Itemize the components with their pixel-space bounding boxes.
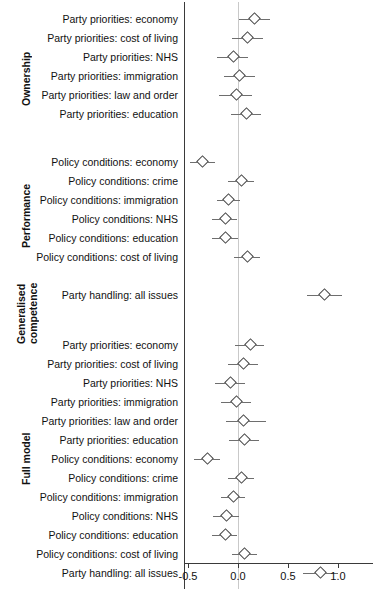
row-plot-area xyxy=(184,86,375,105)
estimate-row: Party priorities: immigration xyxy=(0,393,375,412)
estimate-point xyxy=(201,452,214,465)
estimate-row: Policy conditions: NHS xyxy=(0,210,375,229)
row-plot-area xyxy=(184,374,375,393)
estimate-row: Party priorities: NHS xyxy=(0,374,375,393)
estimate-row: Policy conditions: immigration xyxy=(0,191,375,210)
x-axis-tick xyxy=(188,564,189,568)
estimate-row: Party priorities: law and order xyxy=(0,412,375,431)
x-axis-tick xyxy=(238,564,239,568)
estimate-point xyxy=(227,50,240,63)
estimate-row: Party priorities: immigration xyxy=(0,67,375,86)
estimate-point xyxy=(230,395,243,408)
row-label: Policy conditions: cost of living xyxy=(0,248,178,267)
estimate-point xyxy=(238,547,251,560)
row-label: Party priorities: economy xyxy=(0,336,178,355)
estimate-row: Party priorities: education xyxy=(0,431,375,450)
row-label: Policy conditions: economy xyxy=(0,450,178,469)
estimate-point xyxy=(230,88,243,101)
row-plot-area xyxy=(184,507,375,526)
row-plot-area xyxy=(184,229,375,248)
estimate-point xyxy=(238,433,251,446)
row-plot-area xyxy=(184,393,375,412)
row-label: Party priorities: education xyxy=(0,431,178,450)
estimate-row: Policy conditions: economy xyxy=(0,450,375,469)
row-label: Policy conditions: cost of living xyxy=(0,545,178,564)
row-label: Party priorities: cost of living xyxy=(0,355,178,374)
estimate-row: Policy conditions: economy xyxy=(0,153,375,172)
row-label: Party priorities: law and order xyxy=(0,412,178,431)
row-plot-area xyxy=(184,10,375,29)
estimate-point xyxy=(220,509,233,522)
row-plot-area xyxy=(184,355,375,374)
row-label: Party priorities: NHS xyxy=(0,374,178,393)
row-plot-area xyxy=(184,450,375,469)
row-label: Policy conditions: crime xyxy=(0,172,178,191)
row-label: Party priorities: NHS xyxy=(0,48,178,67)
x-axis-tick-edge xyxy=(184,564,185,568)
row-plot-area xyxy=(184,105,375,124)
row-label: Party priorities: immigration xyxy=(0,67,178,86)
row-label: Party priorities: education xyxy=(0,105,178,124)
x-axis-tick xyxy=(338,564,339,568)
row-plot-area xyxy=(184,412,375,431)
row-plot-area xyxy=(184,488,375,507)
x-axis-tick-label: 0.0 xyxy=(216,570,260,582)
estimate-point xyxy=(227,490,240,503)
estimate-row: Party priorities: NHS xyxy=(0,48,375,67)
row-plot-area xyxy=(184,526,375,545)
row-plot-area xyxy=(184,545,375,564)
estimate-row: Party priorities: economy xyxy=(0,336,375,355)
row-label: Party priorities: cost of living xyxy=(0,29,178,48)
estimate-row: Policy conditions: crime xyxy=(0,469,375,488)
row-label: Policy conditions: immigration xyxy=(0,488,178,507)
row-label: Policy conditions: education xyxy=(0,229,178,248)
row-label: Party handling: all issues xyxy=(0,564,178,583)
row-label: Party priorities: economy xyxy=(0,10,178,29)
estimate-row: Party priorities: education xyxy=(0,105,375,124)
forest-plot: OwnershipParty priorities: economyParty … xyxy=(0,0,375,589)
row-plot-area xyxy=(184,248,375,267)
row-plot-area xyxy=(184,286,375,305)
row-label: Policy conditions: immigration xyxy=(0,191,178,210)
estimate-row: Party priorities: economy xyxy=(0,10,375,29)
estimate-point xyxy=(222,193,235,206)
estimate-point xyxy=(235,471,248,484)
estimate-point xyxy=(235,174,248,187)
row-label: Party priorities: immigration xyxy=(0,393,178,412)
estimate-row: Policy conditions: cost of living xyxy=(0,545,375,564)
row-plot-area xyxy=(184,29,375,48)
x-axis-tick xyxy=(288,564,289,568)
row-label: Policy conditions: crime xyxy=(0,469,178,488)
estimate-point xyxy=(241,31,254,44)
row-label: Party handling: all issues xyxy=(0,286,178,305)
x-axis-tick-label: 1.0 xyxy=(316,570,360,582)
row-plot-area xyxy=(184,431,375,450)
estimate-point xyxy=(219,528,232,541)
estimate-point xyxy=(196,155,209,168)
row-label: Policy conditions: economy xyxy=(0,153,178,172)
row-plot-area xyxy=(184,210,375,229)
x-axis-tick-label: -0.5 xyxy=(166,570,210,582)
estimate-point xyxy=(241,250,254,263)
estimate-point xyxy=(244,338,257,351)
x-axis-tick-label: 0.5 xyxy=(266,570,310,582)
row-label: Policy conditions: NHS xyxy=(0,507,178,526)
estimate-point xyxy=(248,12,261,25)
estimate-point xyxy=(237,357,250,370)
estimate-point xyxy=(233,69,246,82)
estimate-point xyxy=(219,212,232,225)
estimate-point xyxy=(224,376,237,389)
estimate-point xyxy=(240,107,253,120)
estimate-row: Party priorities: cost of living xyxy=(0,355,375,374)
row-plot-area xyxy=(184,172,375,191)
row-label: Policy conditions: education xyxy=(0,526,178,545)
estimate-row: Policy conditions: education xyxy=(0,229,375,248)
row-label: Party priorities: law and order xyxy=(0,86,178,105)
row-plot-area xyxy=(184,153,375,172)
estimate-row: Policy conditions: education xyxy=(0,526,375,545)
x-axis-line xyxy=(184,563,373,564)
row-plot-area xyxy=(184,469,375,488)
estimate-row: Party priorities: cost of living xyxy=(0,29,375,48)
row-plot-area xyxy=(184,67,375,86)
estimate-row: Policy conditions: crime xyxy=(0,172,375,191)
